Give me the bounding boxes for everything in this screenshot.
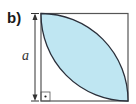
dimension-arrow (31, 14, 39, 102)
lens-region (41, 14, 128, 102)
geometry-diagram (0, 0, 136, 104)
arrowhead-down-icon (33, 95, 38, 102)
arrowhead-up-icon (33, 14, 38, 21)
right-angle-dot (44, 95, 46, 97)
